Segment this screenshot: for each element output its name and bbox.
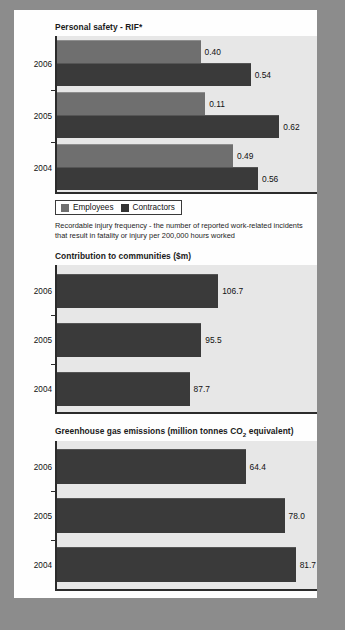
chart-section-emissions: Greenhouse gas emissions (million tonnes… xyxy=(14,426,317,592)
bar-value-label: 81.7 xyxy=(300,560,316,570)
y-tick-label: 2006 xyxy=(34,286,52,295)
bar-emissions-2006[interactable]: 64.4 xyxy=(57,449,246,484)
chart-legend-personal-safety: Employees Contractors xyxy=(55,200,182,215)
y-axis-labels-personal-safety: 2006 2005 2004 xyxy=(28,36,54,194)
chart-title-emissions: Greenhouse gas emissions (million tonnes… xyxy=(55,426,317,438)
bar-value-label: 87.7 xyxy=(194,384,210,394)
bar-value-label: 0.54 xyxy=(255,70,271,80)
y-tick-label: 2006 xyxy=(34,463,52,472)
y-axis-labels-emissions: 2006 2005 2004 xyxy=(28,441,54,591)
y-tick-label: 2004 xyxy=(34,384,52,393)
bar-contribution-2004[interactable]: 87.7 xyxy=(57,372,190,406)
plot-area-emissions: 2006 2005 2004 64.4 78.0 81.7 xyxy=(28,441,317,591)
bar-value-label: 78.0 xyxy=(289,511,305,521)
y-tick-label: 2006 xyxy=(34,60,52,69)
bar-value-label: 0.40 xyxy=(205,47,221,57)
bar-contractors-2005[interactable]: 0.62 xyxy=(57,115,279,138)
bar-contractors-2004[interactable]: 0.56 xyxy=(57,167,258,190)
bar-emissions-2005[interactable]: 78.0 xyxy=(57,498,285,533)
legend-swatch-icon-contractors xyxy=(121,204,129,212)
y-axis-tick xyxy=(51,540,56,541)
chart-section-personal-safety: Personal safety - RIF* 2006 2005 2004 0.… xyxy=(14,22,317,242)
y-axis-tick xyxy=(51,142,56,143)
bar-value-label: 95.5 xyxy=(205,335,221,345)
y-axis-tick xyxy=(51,491,56,492)
y-axis-labels-contribution: 2006 2005 2004 xyxy=(28,265,54,414)
y-tick-label: 2004 xyxy=(34,164,52,173)
chart-title-personal-safety: Personal safety - RIF* xyxy=(55,22,317,32)
y-tick-label: 2005 xyxy=(34,112,52,121)
bar-value-label: 106.7 xyxy=(222,286,243,296)
chart-title-contribution: Contribution to communities ($m) xyxy=(55,251,317,261)
bar-contribution-2006[interactable]: 106.7 xyxy=(57,274,218,308)
chart-title-emissions-suffix: equivalent) xyxy=(246,426,293,436)
bars-container-contribution: 106.7 95.5 87.7 xyxy=(57,265,317,414)
y-axis-tick xyxy=(51,90,56,91)
bar-contractors-2006[interactable]: 0.54 xyxy=(57,63,251,86)
plot-area-contribution: 2006 2005 2004 106.7 95.5 87.7 xyxy=(28,265,317,414)
bar-employees-2006[interactable]: 0.40 xyxy=(57,40,201,63)
chart-footnote-rif: Recordable injury frequency - the number… xyxy=(55,221,305,242)
bar-contribution-2005[interactable]: 95.5 xyxy=(57,323,201,357)
bar-emissions-2004[interactable]: 81.7 xyxy=(57,547,296,582)
bar-value-label: 0.62 xyxy=(283,122,299,132)
bars-container-emissions: 64.4 78.0 81.7 xyxy=(57,441,317,591)
chart-title-emissions-prefix: Greenhouse gas emissions (million tonnes… xyxy=(55,426,243,436)
bar-value-label: 0.11 xyxy=(209,99,225,109)
legend-label-employees: Employees xyxy=(73,203,114,212)
y-axis-tick xyxy=(51,315,56,316)
report-page: Personal safety - RIF* 2006 2005 2004 0.… xyxy=(14,10,317,598)
legend-swatch-icon-employees xyxy=(61,204,69,212)
y-tick-label: 2005 xyxy=(34,512,52,521)
plot-area-personal-safety: 2006 2005 2004 0.40 0.54 0.11 xyxy=(28,36,317,194)
legend-item-contractors: Contractors xyxy=(121,203,175,212)
bar-value-label: 0.56 xyxy=(262,174,278,184)
y-tick-label: 2004 xyxy=(34,561,52,570)
chart-section-contribution: Contribution to communities ($m) 2006 20… xyxy=(14,251,317,414)
legend-label-contractors: Contractors xyxy=(133,203,175,212)
bar-employees-2005[interactable]: 0.11 xyxy=(57,92,205,115)
bar-employees-2004[interactable]: 0.49 xyxy=(57,144,233,167)
bar-value-label: 0.49 xyxy=(237,151,253,161)
y-tick-label: 2005 xyxy=(34,335,52,344)
legend-item-employees: Employees xyxy=(61,203,114,212)
bar-value-label: 64.4 xyxy=(250,462,266,472)
bars-container-personal-safety: 0.40 0.54 0.11 0.62 0.49 0.56 xyxy=(57,36,317,194)
y-axis-tick xyxy=(51,364,56,365)
